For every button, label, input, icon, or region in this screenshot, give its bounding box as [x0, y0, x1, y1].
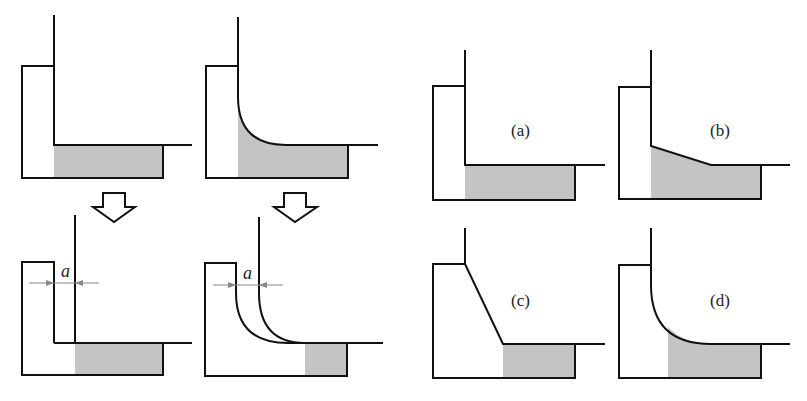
down-arrow-icon: [93, 193, 135, 222]
label-c: (c): [511, 291, 530, 310]
dimension-label-a: a: [243, 263, 252, 283]
diagram-b: (b): [619, 50, 790, 199]
label-b: (b): [710, 121, 730, 140]
diagram-a: (a): [433, 50, 605, 200]
diagram-straight-before: [22, 15, 192, 178]
label-a: (a): [511, 121, 530, 140]
dimension-label-a: a: [61, 261, 70, 281]
down-arrow-icon: [274, 193, 317, 222]
diagram-d: (d): [619, 228, 790, 378]
label-d: (d): [710, 291, 730, 310]
diagram-straight-after: a: [22, 215, 192, 375]
diagram-canvas: a a (a) (b) (c) (d): [0, 0, 807, 401]
diagram-curved-before: [206, 17, 378, 178]
diagram-curved-after: a: [205, 217, 383, 376]
diagram-c: (c): [433, 228, 605, 378]
